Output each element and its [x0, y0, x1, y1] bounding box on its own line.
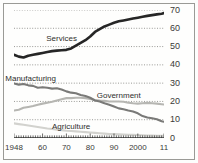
chart-figure: 010203040506070 194860708090200011 Servi…: [0, 0, 198, 163]
y-tick-label: 30: [170, 79, 180, 88]
x-tick-label: 1948: [1, 144, 27, 152]
y-tick-label: 20: [170, 97, 180, 106]
x-tick-label: 80: [77, 144, 103, 152]
x-tick-label: 11: [151, 144, 177, 152]
series-label-agriculture: Agriculture: [52, 123, 90, 131]
x-tick-label: 90: [101, 144, 127, 152]
y-tick-label: 70: [170, 6, 180, 15]
series-label-government: Government: [97, 92, 141, 100]
series-label-manufacturing: Manufacturing: [5, 75, 56, 83]
y-tick-label: 0: [170, 134, 175, 143]
series-line-government: [14, 98, 164, 111]
x-tick-label: 2000: [125, 144, 151, 152]
y-tick-label: 40: [170, 60, 180, 69]
series-label-services: Services: [46, 35, 77, 43]
y-tick-label: 50: [170, 42, 180, 51]
series-line-services: [14, 13, 164, 57]
x-tick-label: 70: [53, 144, 79, 152]
y-tick-label: 60: [170, 24, 180, 33]
y-tick-label: 10: [170, 115, 180, 124]
x-tick-label: 60: [30, 144, 56, 152]
